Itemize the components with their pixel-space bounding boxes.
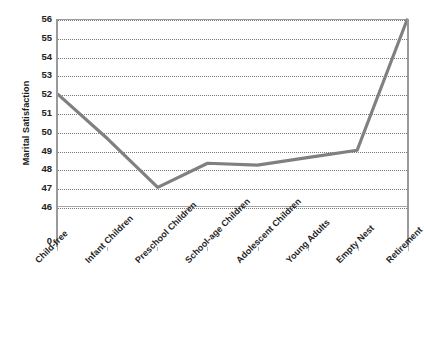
series-line-marital-satisfaction — [58, 20, 407, 206]
y-tick-48: 48 — [26, 165, 52, 175]
y-tick-53: 53 — [26, 71, 52, 81]
y-tick-50: 50 — [26, 127, 52, 137]
y-tick-51: 51 — [26, 108, 52, 118]
y-tick-52: 52 — [26, 89, 52, 99]
y-tick-55: 55 — [26, 33, 52, 43]
x-axis-label-infant-children: Infant Children — [83, 213, 135, 265]
x-axis-label-retirement: Retirement — [384, 225, 424, 265]
y-tick-56: 56 — [26, 14, 52, 24]
y-axis-spine — [56, 19, 58, 247]
y-tick-47: 47 — [26, 183, 52, 193]
y-tick-49: 49 — [26, 146, 52, 156]
plot-area — [57, 19, 408, 207]
y-axis-tick-labels: 56555453525150494847460 — [26, 0, 52, 250]
x-axis-label-empty-nest: Empty Nest — [334, 223, 376, 265]
y-tick-54: 54 — [26, 52, 52, 62]
x-axis-label-young-adults: Young Adults — [284, 217, 332, 265]
x-tick-3 — [207, 247, 208, 251]
x-axis-end-tick — [407, 19, 409, 247]
y-tick-46: 46 — [26, 202, 52, 212]
